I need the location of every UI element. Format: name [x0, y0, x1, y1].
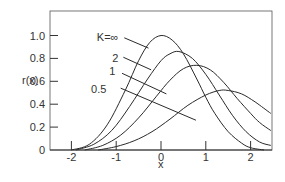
y-tick-label: 0.4	[30, 98, 45, 110]
curve-label: K=∞	[97, 31, 119, 43]
y-axis: 00.20.40.60.81.0	[30, 30, 58, 157]
curve-label: 1	[109, 65, 115, 77]
curve-label: 0.5	[91, 83, 106, 95]
x-tick-label: 1	[203, 151, 209, 163]
y-tick-label: 0.2	[30, 121, 45, 133]
skew-density-chart: 00.20.40.60.81.0 -2-1012 K=∞210.5 r(x) x	[0, 0, 285, 182]
x-tick-label: -2	[67, 151, 77, 163]
y-tick-label: 0.8	[30, 52, 45, 64]
curve-0.5	[98, 90, 270, 150]
x-tick-label: -1	[111, 151, 121, 163]
x-axis-label: x	[158, 158, 164, 170]
leader-line	[121, 88, 196, 120]
y-axis-label: r(x)	[22, 74, 39, 86]
x-tick-label: 2	[248, 151, 254, 163]
leader-line	[123, 57, 151, 70]
curve-label: 2	[112, 52, 118, 64]
y-tick-label: 1.0	[30, 30, 45, 42]
leader-line	[124, 38, 148, 48]
plot-frame	[50, 11, 272, 150]
curve-1	[85, 65, 271, 150]
y-tick-label: 0	[39, 144, 45, 156]
curve-2	[76, 51, 271, 150]
curve-labels: K=∞210.5	[91, 31, 196, 120]
